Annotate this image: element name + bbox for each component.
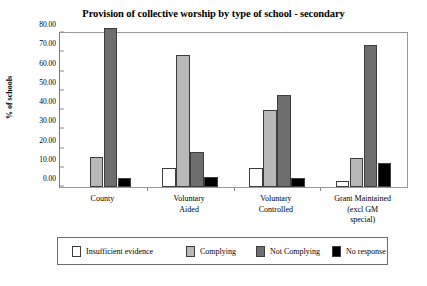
bar bbox=[378, 163, 392, 187]
y-axis-tick-label: 40.00 bbox=[16, 97, 56, 106]
bar bbox=[249, 168, 263, 187]
bar bbox=[190, 152, 204, 187]
x-axis-category-label: VoluntaryAided bbox=[146, 194, 233, 215]
bar bbox=[104, 28, 118, 187]
x-axis-category-label: County bbox=[59, 194, 146, 205]
legend-label: Complying bbox=[200, 247, 236, 256]
legend-item[interactable]: Complying bbox=[186, 246, 236, 257]
legend-item[interactable]: Insufficient evidence bbox=[72, 246, 153, 257]
bar bbox=[162, 168, 176, 187]
y-axis-title: % of schools bbox=[5, 58, 14, 138]
legend-label: No response bbox=[346, 247, 386, 256]
bar bbox=[364, 45, 378, 187]
y-axis-tick-label: 30.00 bbox=[16, 116, 56, 125]
y-axis-tick-label: 70.00 bbox=[16, 39, 56, 48]
legend-item[interactable]: No response bbox=[332, 246, 386, 257]
x-axis-category-label-line: Voluntary bbox=[146, 194, 233, 205]
category-separator-tick bbox=[234, 187, 235, 191]
plot-area: 0.0010.0020.0030.0040.0050.0060.0070.008… bbox=[59, 32, 408, 188]
bar bbox=[118, 178, 132, 187]
x-axis-category-label-line: Controlled bbox=[233, 205, 320, 216]
bar-group bbox=[60, 33, 147, 187]
y-axis-tick-label: 50.00 bbox=[16, 77, 56, 86]
chart-title: Provision of collective worship by type … bbox=[0, 8, 427, 20]
x-axis-category-label-line: (excl GM bbox=[319, 205, 406, 216]
x-axis-category-label-line: special) bbox=[319, 215, 406, 226]
x-axis-category-label: Grant Maintained(excl GMspecial) bbox=[319, 194, 406, 226]
bar bbox=[336, 181, 350, 187]
bar bbox=[277, 95, 291, 187]
x-axis-category-label-line: County bbox=[59, 194, 146, 205]
x-axis-category-labels: CountyVoluntaryAidedVoluntaryControlledG… bbox=[59, 194, 408, 240]
bar bbox=[90, 157, 104, 187]
legend-swatch bbox=[72, 246, 81, 257]
chart-figure: Provision of collective worship by type … bbox=[0, 0, 427, 286]
bar bbox=[350, 158, 364, 187]
bar bbox=[204, 177, 218, 187]
x-axis-category-label-line: Aided bbox=[146, 205, 233, 216]
y-axis-tick-label: 0.00 bbox=[16, 174, 56, 183]
category-separator-tick bbox=[320, 187, 321, 191]
bar bbox=[263, 110, 277, 187]
y-axis-tick-label: 80.00 bbox=[16, 20, 56, 29]
bar-group bbox=[320, 33, 407, 187]
x-axis-category-label-line: Grant Maintained bbox=[319, 194, 406, 205]
y-axis-tick-label: 20.00 bbox=[16, 135, 56, 144]
chart-legend: Insufficient evidenceComplyingNot Comply… bbox=[57, 237, 388, 265]
category-separator-tick bbox=[147, 187, 148, 191]
legend-label: Insufficient evidence bbox=[86, 247, 153, 256]
x-axis-category-label-line: Voluntary bbox=[233, 194, 320, 205]
legend-swatch bbox=[186, 246, 195, 257]
bar bbox=[176, 55, 190, 187]
legend-swatch bbox=[332, 246, 341, 257]
legend-item[interactable]: Not Complying bbox=[256, 246, 320, 257]
bar-group bbox=[147, 33, 234, 187]
y-axis-tick-label: 60.00 bbox=[16, 58, 56, 67]
bar bbox=[291, 178, 305, 187]
legend-label: Not Complying bbox=[270, 247, 320, 256]
legend-swatch bbox=[256, 246, 265, 257]
bar-group bbox=[234, 33, 321, 187]
x-axis-category-label: VoluntaryControlled bbox=[233, 194, 320, 215]
y-axis-tick-label: 10.00 bbox=[16, 154, 56, 163]
